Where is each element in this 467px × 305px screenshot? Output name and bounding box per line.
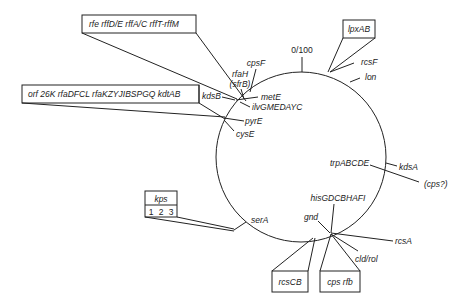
lpxAB-label: lpxAB — [348, 24, 371, 34]
gene-metE: metE — [261, 92, 281, 102]
origin-label: 0/100 — [291, 45, 313, 55]
rfe-cluster-label: rfe rffD/E rffA/C rffT-rffM — [89, 19, 180, 29]
gene-his: hisGDCBHAFI — [311, 193, 366, 203]
rcsCB-connector-left — [272, 238, 313, 271]
kps-connector-left — [145, 217, 234, 231]
lpxAB-connector-left — [328, 38, 343, 72]
cpsF-tick — [250, 69, 256, 92]
rcsCB-connector-right — [308, 238, 315, 271]
kps-3: 3 — [169, 207, 174, 217]
gene-serA: serA — [251, 215, 269, 225]
gnd-tick — [318, 221, 330, 233]
kps-2: 2 — [159, 207, 164, 217]
serA-tick — [234, 222, 246, 230]
kps-label: kps — [154, 194, 168, 204]
rfa-connector-left — [22, 103, 225, 117]
gene-rcsF: rcsF — [361, 57, 378, 67]
gene-ilv: ilvGMEDAYC — [252, 102, 303, 112]
gene-kdsB: kdsB — [202, 91, 221, 101]
rcsCB-label: rcsCB — [278, 277, 301, 287]
gene-cysE: cysE — [236, 129, 255, 139]
rcsF-tick — [330, 63, 354, 72]
gene-lon: lon — [365, 72, 377, 82]
rfa-cluster-label: orf 26K rfaDFCL rfaKZYJIBSPGQ kdtAB — [28, 89, 181, 99]
cysE-tick — [224, 120, 234, 131]
gene-trp: trpABCDE — [330, 158, 370, 168]
lon-tick — [350, 78, 360, 82]
ilv-tick — [240, 102, 250, 107]
gene-gnd: gnd — [304, 212, 318, 222]
cps-rfb-label: cps rfb — [327, 277, 353, 287]
gene-pyrE: pyrE — [244, 116, 263, 126]
genetic-map: 0/100 rfe rffD/E rffA/C rffT-rffM rfaH (… — [0, 0, 467, 305]
his-tick — [331, 204, 334, 233]
chromosome-circle — [216, 72, 386, 242]
gene-cld: cld/rol — [355, 254, 379, 264]
gene-rfaH: rfaH — [232, 69, 249, 79]
gene-cps-q: (cps?) — [424, 179, 448, 189]
gene-cpsF: cpsF — [247, 58, 266, 68]
kdsA-tick — [386, 163, 397, 166]
kps-1: 1 — [149, 207, 154, 217]
gene-sfrB: (sfrB) — [230, 79, 251, 89]
cps-rfb-connector-right — [331, 234, 360, 271]
cld-tick — [331, 234, 358, 251]
gene-kdsA: kdsA — [399, 162, 418, 172]
pyrE-tick — [224, 118, 244, 121]
gene-rcsA: rcsA — [395, 236, 412, 246]
